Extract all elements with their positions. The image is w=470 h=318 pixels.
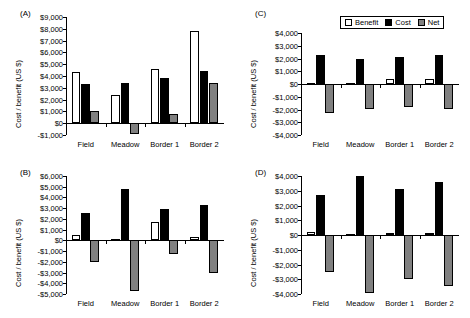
- bar-benefit: [307, 83, 316, 85]
- x-tick-mark: [420, 84, 421, 88]
- panel-b-plot: $6,000$5,000$4,000$3,000$2,000$1,000$0-$…: [66, 176, 224, 294]
- bar-cost: [81, 84, 90, 123]
- y-tick-label: -$1,000: [38, 131, 63, 140]
- y-tick-label: $3,000: [275, 186, 298, 195]
- x-tick-mark: [420, 235, 421, 239]
- bars: [341, 33, 381, 135]
- y-tick-label: $3,000: [40, 83, 63, 92]
- legend-label-cost: Cost: [395, 18, 410, 27]
- panel-d-bar-groups: [301, 176, 459, 294]
- y-tick-label: $4,000: [40, 193, 63, 202]
- y-tick-label: $8,000: [40, 24, 63, 33]
- panel-a-x-labels: FieldMeadowBorder 1Border 2: [66, 140, 224, 149]
- x-tick-mark: [185, 240, 186, 244]
- x-axis-label: Border 1: [145, 140, 185, 149]
- y-tick-label: -$4,000: [273, 131, 298, 140]
- bar-group-border-2: [185, 17, 225, 135]
- x-axis-label: Meadow: [106, 140, 146, 149]
- panel-b-y-axis-title: Cost / benefit (US $): [14, 219, 23, 287]
- y-tick-label: -$5,000: [38, 290, 63, 299]
- y-tick-label: $2,000: [275, 201, 298, 210]
- bar-cost: [81, 213, 90, 240]
- panel-a-plot: $9,000$8,000$7,000$6,000$5,000$4,000$3,0…: [66, 17, 224, 135]
- x-tick-mark: [341, 84, 342, 88]
- bar-cost: [121, 83, 130, 123]
- bar-cost: [121, 189, 130, 240]
- bar-net: [404, 235, 413, 279]
- legend-swatch-benefit-icon: [345, 19, 352, 26]
- legend-swatch-cost-icon: [385, 19, 392, 26]
- bars: [185, 17, 225, 135]
- bar-cost: [160, 78, 169, 123]
- y-tick-label: -$4,000: [273, 290, 298, 299]
- bar-cost: [435, 182, 444, 235]
- y-tick-label: $5,000: [40, 182, 63, 191]
- bar-benefit: [307, 232, 316, 235]
- y-tick-label: $6,000: [40, 48, 63, 57]
- y-tick-label: $4,000: [40, 72, 63, 81]
- x-axis-label: Field: [66, 299, 106, 308]
- y-tick-mark: [298, 294, 301, 295]
- bar-group-border-1: [145, 176, 185, 294]
- panel-b: (B) Cost / benefit (US $) $6,000$5,000$4…: [0, 159, 235, 318]
- bar-benefit: [386, 79, 395, 84]
- x-tick-mark: [341, 235, 342, 239]
- bars: [66, 17, 106, 135]
- y-tick-label: $2,000: [40, 95, 63, 104]
- x-axis-label: Border 2: [185, 140, 225, 149]
- x-axis-label: Border 2: [185, 299, 225, 308]
- legend-item-net: Net: [418, 18, 440, 27]
- bar-group-border-2: [420, 176, 460, 294]
- x-tick-mark: [145, 240, 146, 244]
- bar-net: [169, 240, 178, 254]
- legend-swatch-net-icon: [418, 19, 425, 26]
- bar-cost: [395, 57, 404, 84]
- y-tick-label: -$1,000: [38, 247, 63, 256]
- bar-net: [209, 83, 218, 123]
- x-tick-mark: [185, 123, 186, 127]
- bar-group-meadow: [341, 33, 381, 135]
- panel-a-bar-groups: [66, 17, 224, 135]
- bar-cost: [200, 205, 209, 240]
- panel-d: (D) Cost / benefit (US $) $4,000$3,000$2…: [235, 159, 470, 318]
- bar-cost: [316, 55, 325, 84]
- bar-cost: [200, 71, 209, 123]
- y-tick-label: -$2,000: [38, 257, 63, 266]
- x-axis-label: Border 1: [380, 299, 420, 308]
- bar-benefit: [346, 234, 355, 236]
- bars: [106, 176, 146, 294]
- y-tick-mark: [63, 135, 66, 136]
- panel-d-plot: $4,000$3,000$2,000$1,000$0-$1,000-$2,000…: [301, 176, 459, 294]
- x-tick-mark: [106, 123, 107, 127]
- legend-label-benefit: Benefit: [355, 18, 378, 27]
- bar-net: [130, 123, 139, 134]
- bar-benefit: [425, 79, 434, 84]
- bars: [380, 33, 420, 135]
- bar-benefit: [190, 237, 199, 240]
- y-tick-label: $0: [55, 236, 63, 245]
- y-tick-label: $5,000: [40, 60, 63, 69]
- bar-benefit: [425, 233, 434, 235]
- y-tick-label: -$4,000: [38, 279, 63, 288]
- bars: [145, 176, 185, 294]
- y-tick-label: -$3,000: [273, 275, 298, 284]
- bars: [301, 33, 341, 135]
- bars: [145, 17, 185, 135]
- x-axis-label: Field: [301, 299, 341, 308]
- panel-d-y-axis-title: Cost / benefit (US $): [249, 219, 258, 287]
- bar-benefit: [72, 235, 81, 240]
- bar-net: [325, 84, 334, 113]
- y-tick-label: -$3,000: [38, 268, 63, 277]
- panel-c-bar-groups: [301, 33, 459, 135]
- bars: [185, 176, 225, 294]
- y-tick-label: -$2,000: [273, 260, 298, 269]
- bars: [380, 176, 420, 294]
- bars: [420, 176, 460, 294]
- x-axis-label: Meadow: [341, 299, 381, 308]
- bar-group-border-1: [380, 176, 420, 294]
- legend-item-benefit: Benefit: [345, 18, 378, 27]
- y-tick-label: -$3,000: [273, 118, 298, 127]
- x-tick-mark: [145, 123, 146, 127]
- legend-label-net: Net: [428, 18, 440, 27]
- y-tick-label: -$2,000: [273, 105, 298, 114]
